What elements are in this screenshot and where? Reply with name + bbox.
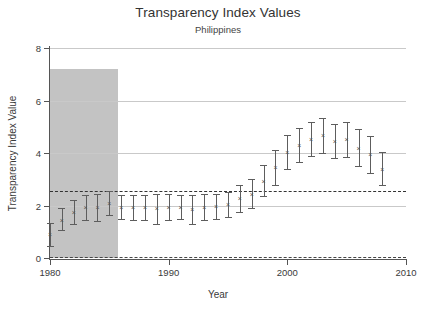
data-point-marker: ×	[143, 203, 147, 210]
error-bar-cap-lower	[106, 215, 113, 216]
error-bar-cap-upper	[248, 179, 255, 180]
data-point-marker: ×	[131, 203, 135, 210]
error-bar-cap-upper	[94, 194, 101, 195]
data-point-marker: ×	[356, 144, 360, 151]
gridline-y-6	[50, 101, 406, 102]
error-bar-cap-upper	[308, 122, 315, 123]
data-point-marker: ×	[321, 131, 325, 138]
error-bar-cap-upper	[47, 223, 54, 224]
x-tick-mark-2010	[406, 260, 407, 265]
data-point-marker: ×	[155, 205, 159, 212]
error-bar-cap-lower	[213, 219, 220, 220]
data-point-marker: ×	[262, 177, 266, 184]
data-point-marker: ×	[214, 202, 218, 209]
error-bar-cap-upper	[343, 122, 350, 123]
y-tick-label-6: 6	[28, 95, 41, 106]
error-bar-cap-lower	[94, 221, 101, 222]
chart-subtitle: Philippines	[0, 24, 436, 35]
y-axis-label-text: Transparency Index Value	[8, 95, 19, 211]
error-bar-cap-lower	[189, 224, 196, 225]
error-bar-cap-upper	[141, 195, 148, 196]
error-bar-cap-upper	[272, 150, 279, 151]
error-bar-cap-upper	[296, 128, 303, 129]
data-point-marker: ×	[178, 203, 182, 210]
error-bar-cap-upper	[201, 194, 208, 195]
error-bar-cap-upper	[236, 185, 243, 186]
error-bar-cap-upper	[153, 194, 160, 195]
error-bar-cap-lower	[379, 185, 386, 186]
data-point-marker: ×	[368, 151, 372, 158]
data-point-marker: ×	[333, 138, 337, 145]
error-bar-cap-upper	[118, 195, 125, 196]
error-bar-cap-lower	[118, 219, 125, 220]
y-tick-mark-8	[44, 48, 49, 49]
error-bar-cap-lower	[47, 246, 54, 247]
error-bar-cap-lower	[367, 173, 374, 174]
data-point-marker: ×	[48, 231, 52, 238]
error-bar-cap-lower	[177, 219, 184, 220]
error-bar-cap-lower	[201, 220, 208, 221]
x-axis-line	[49, 259, 407, 260]
error-bar-cap-lower	[248, 208, 255, 209]
y-tick-label-0: 0	[28, 253, 41, 264]
error-bar-cap-upper	[70, 200, 77, 201]
x-axis-label: Year	[0, 289, 436, 300]
plot-area: ×××××××××××××××××××××××××××××	[50, 48, 406, 258]
data-point-marker: ×	[60, 216, 64, 223]
x-tick-mark-2000	[287, 260, 288, 265]
error-bar-cap-upper	[225, 192, 232, 193]
error-bar-cap-upper	[331, 124, 338, 125]
error-bar-cap-upper	[165, 194, 172, 195]
error-bar-cap-lower	[284, 169, 291, 170]
error-bar-cap-lower	[343, 157, 350, 158]
data-point-marker: ×	[297, 142, 301, 149]
y-tick-mark-0	[44, 258, 49, 259]
data-point-marker: ×	[72, 209, 76, 216]
error-bar-cap-lower	[236, 212, 243, 213]
data-point-marker: ×	[84, 203, 88, 210]
error-bar-cap-lower	[308, 156, 315, 157]
x-tick-mark-1980	[50, 260, 51, 265]
x-tick-mark-1990	[169, 260, 170, 265]
error-bar-cap-lower	[272, 185, 279, 186]
error-bar-cap-lower	[225, 217, 232, 218]
data-point-marker: ×	[285, 148, 289, 155]
error-bar-cap-upper	[130, 195, 137, 196]
y-tick-label-8: 8	[28, 43, 41, 54]
zero-line	[50, 257, 406, 258]
error-bar-cap-lower	[296, 162, 303, 163]
gridline-y-8	[50, 48, 406, 49]
x-tick-label-2010: 2010	[395, 267, 416, 278]
error-bar-cap-lower	[141, 220, 148, 221]
error-bar-cap-upper	[58, 208, 65, 209]
error-bar-cap-upper	[355, 129, 362, 130]
gridline-y-4	[50, 153, 406, 154]
data-point-marker: ×	[95, 203, 99, 210]
error-bar-cap-upper	[319, 118, 326, 119]
error-bar-cap-upper	[106, 191, 113, 192]
error-bar-cap-upper	[177, 195, 184, 196]
error-bar-cap-lower	[153, 224, 160, 225]
error-bar-cap-lower	[58, 230, 65, 231]
error-bar-cap-lower	[319, 153, 326, 154]
x-tick-label-2000: 2000	[277, 267, 298, 278]
error-bar-cap-upper	[213, 194, 220, 195]
error-bar-cap-upper	[82, 195, 89, 196]
y-axis-label: Transparency Index Value	[6, 48, 20, 258]
data-point-marker: ×	[190, 206, 194, 213]
data-point-marker: ×	[167, 203, 171, 210]
error-bar-cap-lower	[70, 224, 77, 225]
y-tick-label-2: 2	[28, 200, 41, 211]
data-point-marker: ×	[273, 164, 277, 171]
data-point-marker: ×	[226, 201, 230, 208]
y-tick-mark-2	[44, 206, 49, 207]
error-bar-cap-upper	[284, 135, 291, 136]
error-bar-cap-upper	[367, 136, 374, 137]
data-point-marker: ×	[202, 203, 206, 210]
error-bar-cap-lower	[331, 158, 338, 159]
error-bar-cap-lower	[355, 166, 362, 167]
data-point-marker: ×	[119, 203, 123, 210]
x-tick-label-1980: 1980	[39, 267, 60, 278]
chart-title: Transparency Index Values	[0, 5, 436, 20]
y-tick-mark-6	[44, 101, 49, 102]
